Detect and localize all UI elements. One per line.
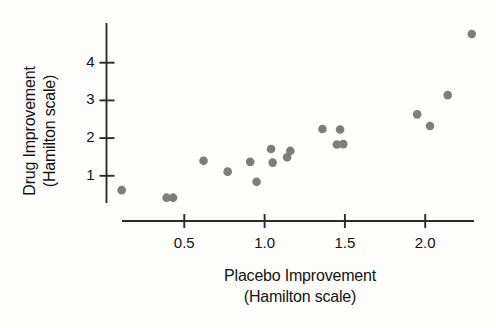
data-points xyxy=(117,30,476,202)
data-point xyxy=(268,158,277,167)
data-point xyxy=(223,167,232,176)
data-point xyxy=(318,125,327,134)
data-point xyxy=(443,91,452,100)
data-point xyxy=(267,145,276,154)
data-point xyxy=(199,156,208,165)
data-point xyxy=(426,122,435,131)
data-point xyxy=(413,110,422,119)
axes xyxy=(100,23,475,228)
data-point xyxy=(339,140,348,149)
scatter-plot-figure: Drug Improvement (Hamilton scale) Placeb… xyxy=(0,0,496,328)
data-point xyxy=(252,178,261,187)
data-point xyxy=(169,193,178,202)
data-point xyxy=(336,125,345,134)
data-point xyxy=(246,158,255,167)
data-point xyxy=(286,147,295,156)
data-point xyxy=(467,30,476,39)
plot-area xyxy=(0,0,496,328)
data-point xyxy=(117,186,126,195)
